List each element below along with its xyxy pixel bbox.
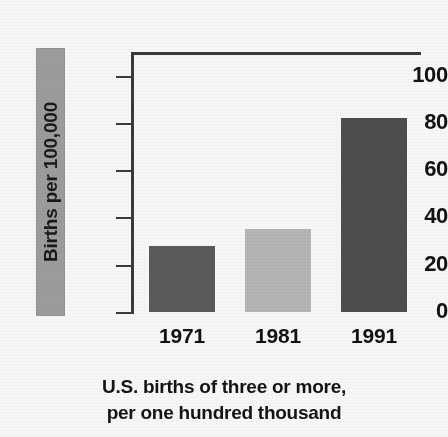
caption-line-1: U.S. births of three or more, xyxy=(0,374,448,400)
caption-line-2: per one hundred thousand xyxy=(0,400,448,426)
y-axis-tick xyxy=(116,170,132,172)
y-axis-tick xyxy=(116,217,132,219)
chart-caption: U.S. births of three or more, per one hu… xyxy=(0,374,448,425)
bar-1991 xyxy=(341,118,407,312)
bar-fill xyxy=(149,246,215,312)
y-axis-title: Births per 100,000 xyxy=(40,102,62,262)
x-axis-label-1981: 1981 xyxy=(230,324,326,348)
y-axis-tick xyxy=(116,76,132,78)
bar-fill xyxy=(341,118,407,312)
chart-figure: Births per 100,000 020406080100 19711981… xyxy=(0,0,448,437)
x-axis-label-1971: 1971 xyxy=(134,324,230,348)
y-axis-tick xyxy=(116,265,132,267)
y-axis-tick xyxy=(116,312,132,314)
bar-1981 xyxy=(245,229,311,312)
y-axis-label-band: Births per 100,000 xyxy=(36,48,65,316)
plot-area xyxy=(134,52,422,312)
x-axis-label-1991: 1991 xyxy=(326,324,422,348)
bar-fill xyxy=(245,229,311,312)
y-axis-tick xyxy=(116,123,132,125)
bar-1971 xyxy=(149,246,215,312)
